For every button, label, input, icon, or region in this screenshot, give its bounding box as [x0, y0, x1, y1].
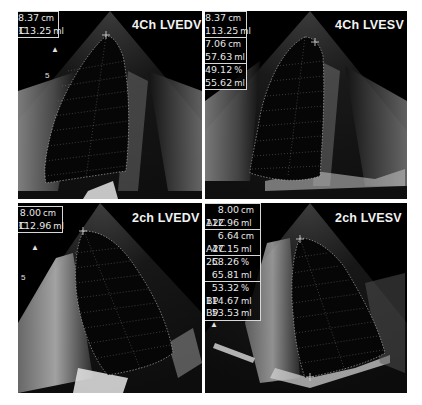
ultrasound-sector-image: [18, 11, 202, 199]
panel-title: 4Ch LVEDV: [132, 18, 202, 32]
depth-marker: 5: [45, 71, 49, 80]
echo-panel-4ch-lvesv: 4Ch LVESV 8.37cm 113.25ml 7.06cm 57.63ml…: [205, 11, 407, 199]
measurement-row: 113.25ml: [205, 25, 246, 38]
measurement-row: A2C47.15ml: [205, 243, 260, 256]
measurement-row: A2C112.96ml: [205, 217, 260, 230]
measurement-box: 8.00cm A2C112.96ml 6.64cm A2C47.15ml 2C5…: [205, 203, 261, 321]
measurement-box: 8.37cm 113.25ml 7.06cm 57.63ml 49.12% 55…: [205, 11, 247, 90]
measurement-row: 49.12%: [205, 63, 246, 77]
transducer-marker-icon: ▲: [210, 320, 218, 329]
measurement-row: BP114.67ml: [205, 295, 260, 308]
measurement-row: 6.64cm: [205, 229, 260, 243]
echo-panel-2ch-lvedv: ▲ 5 2ch LVEDV 8.00cm C112.96ml: [18, 203, 202, 393]
measurement-row: 53.32%: [205, 281, 260, 295]
panel-title: 2ch LVESV: [335, 211, 402, 225]
measurement-row: 8.00cm: [205, 204, 260, 217]
echo-panel-4ch-lvedv: ▲ 5 4Ch LVEDV 8.37cm C113.25ml: [18, 11, 202, 199]
transducer-marker-icon: ▲: [31, 243, 39, 252]
echo-panel-2ch-lvesv: ▲ 2ch LVESV 8.00cm A2C112.96ml 6.64cm A2…: [205, 203, 407, 393]
transducer-marker-icon: ▲: [51, 45, 59, 54]
measurement-row: 8.37cm: [18, 12, 58, 25]
measurement-row: C112.96ml: [18, 220, 62, 233]
measurement-row: 57.63ml: [205, 51, 246, 64]
measurement-row: 8.37cm: [205, 12, 246, 25]
measurement-row: 65.81ml: [205, 269, 260, 282]
measurement-row: BP53.53ml: [205, 307, 260, 320]
measurement-row: 8.00cm: [18, 207, 62, 220]
measurement-row: C113.25ml: [18, 25, 58, 38]
depth-marker: 5: [21, 273, 25, 282]
panel-title: 4Ch LVESV: [335, 18, 404, 32]
measurement-row: 55.62ml: [205, 77, 246, 90]
measurement-box: 8.00cm C112.96ml: [18, 206, 63, 233]
panel-title: 2ch LVEDV: [132, 211, 200, 225]
measurement-row: 2C58.26%: [205, 255, 260, 269]
measurement-row: 7.06cm: [205, 37, 246, 51]
measurement-box: 8.37cm C113.25ml: [18, 11, 59, 38]
